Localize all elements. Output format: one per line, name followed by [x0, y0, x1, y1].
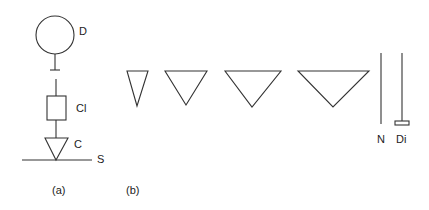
label-disk: Di — [396, 134, 406, 145]
triangle-3 — [225, 71, 281, 107]
figure: D Cl C S (a) (b) N Di — [0, 0, 429, 210]
label-surface: S — [97, 154, 104, 165]
disk-base — [395, 121, 409, 125]
caption-a: (a) — [52, 185, 65, 196]
label-contact: C — [74, 139, 82, 150]
caption-b: (b) — [126, 185, 139, 196]
drop-circle — [36, 16, 74, 54]
triangle-1 — [127, 71, 148, 106]
label-clear: Cl — [76, 103, 86, 114]
triangle-2 — [165, 71, 207, 105]
label-needle: N — [377, 134, 385, 145]
label-drop: D — [79, 26, 87, 37]
clear-box — [47, 96, 66, 120]
diagram-drawing — [0, 0, 429, 210]
contact-triangle — [45, 138, 68, 160]
triangle-4 — [298, 71, 369, 107]
